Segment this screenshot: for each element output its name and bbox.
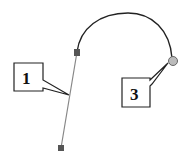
endpoint-circle[interactable] (169, 57, 178, 66)
anchor-handle-top[interactable] (74, 49, 80, 56)
callout-1-label: 1 (22, 69, 31, 88)
callout-3-label: 3 (130, 85, 139, 104)
control-handle-bottom[interactable] (58, 145, 64, 151)
bezier-diagram: 1 3 (0, 0, 191, 166)
callout-1: 1 (14, 63, 69, 95)
callout-3: 3 (122, 63, 168, 107)
arc-curve (77, 13, 172, 58)
tangent-line (61, 52, 77, 148)
